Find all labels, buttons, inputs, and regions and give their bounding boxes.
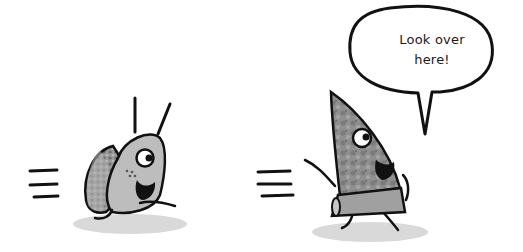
rock-character [258, 92, 428, 242]
snail-shadow [73, 214, 187, 234]
speech-bubble-text: Look over here! [372, 30, 492, 70]
speed-lines-icon [258, 171, 293, 196]
rock-shadow [312, 222, 428, 242]
snail-character [30, 98, 187, 234]
speed-lines-icon [30, 170, 58, 197]
speech-line-2: here! [372, 50, 492, 70]
speech-line-1: Look over [372, 30, 492, 50]
speech-bubble [350, 6, 493, 134]
